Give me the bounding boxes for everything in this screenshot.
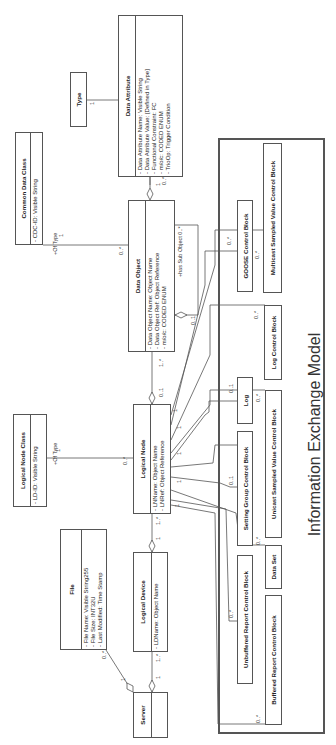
label: 0..*: [101, 651, 107, 659]
class-attributes: - Data Attribute Name: Visible String - …: [135, 16, 173, 176]
label: 1..*: [155, 517, 161, 525]
label: 0..1: [190, 316, 196, 325]
label: 0..*: [254, 251, 260, 259]
class-server: Server: [133, 692, 168, 738]
block-log: Log: [237, 377, 253, 424]
label: 1: [155, 537, 161, 540]
class-data-object: Data Object - Data Object Name: Object N…: [128, 200, 175, 352]
label: 0..*: [255, 537, 261, 545]
label: 1: [55, 449, 61, 452]
label: 0..1: [158, 388, 164, 397]
label: 0..*: [226, 237, 232, 245]
class-logical-device: Logical Device - LDName: Object Name: [133, 552, 168, 652]
label: 0..1: [228, 384, 234, 393]
block-urcb: Unbuffered Report Control Block: [237, 555, 253, 684]
label: 0..*: [255, 715, 261, 723]
label: 1: [89, 102, 95, 105]
class-data-attribute: Data Attribute - Data Attribute Name: Vi…: [118, 15, 183, 177]
class-name: Data Attribute: [119, 16, 135, 176]
class-file: File - File Name: Visible String255 - Fi…: [60, 529, 107, 650]
class-logical-node: Logical Node - LNName: Object Name - LNR…: [133, 404, 171, 514]
label: 1: [176, 452, 182, 455]
label: 1..*: [155, 654, 161, 662]
label: 1: [155, 676, 161, 679]
label: 1: [172, 409, 178, 412]
block-goose: GOOSE Control Block: [237, 200, 253, 292]
label: +Of Type: [52, 443, 58, 465]
label: 0..*: [122, 457, 128, 465]
label: 1: [176, 480, 182, 483]
label: 0..*: [118, 247, 124, 255]
block-data-set: Data Set: [265, 545, 282, 589]
model-title: Information Exchange Model: [305, 312, 325, 557]
label: 0..*: [228, 610, 234, 618]
label: 0..*: [255, 394, 261, 402]
label: 1: [176, 426, 182, 429]
class-logical-node-class: Logical Node Class - LD-ID: Visible Stri…: [13, 414, 47, 507]
label: +has Sub Object 0..*: [177, 226, 183, 277]
label: 1..*: [158, 359, 164, 367]
label: 1: [58, 234, 64, 237]
class-type: Type: [70, 72, 87, 127]
class-common-data-class: Common Data Class - CDC-ID: Visible Stri…: [15, 132, 43, 245]
block-usvcb: Unicast Sampled Value Control Block: [265, 390, 282, 538]
block-msvcb: Multicast Sampled Value Control Block: [263, 143, 282, 293]
block-sgcb: Setting Group Control Block: [237, 431, 253, 546]
block-brcb: Buffered Report Control Block: [265, 595, 282, 725]
label: 1: [174, 504, 180, 507]
block-log-control: Log Control Block: [264, 305, 282, 380]
label: 0..*: [161, 177, 167, 185]
label: 0..*: [253, 311, 259, 319]
uml-diagram: Data Attribute - Data Attribute Name: Vi…: [0, 0, 336, 745]
label: 1: [120, 678, 126, 681]
label: 0..1: [228, 476, 234, 485]
